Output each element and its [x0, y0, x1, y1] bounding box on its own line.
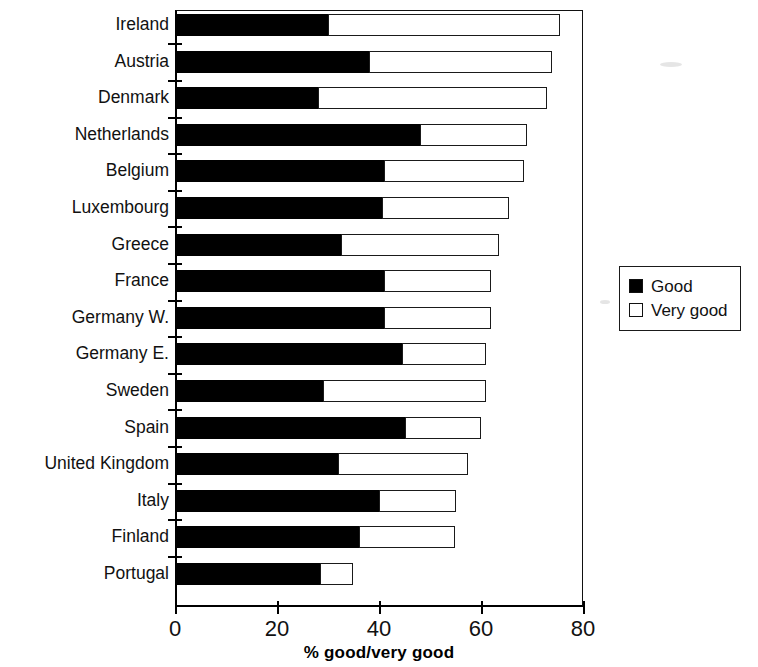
bar-segment-very-good: [402, 343, 486, 365]
bar-segment-very-good: [318, 87, 548, 109]
bar-segment-very-good: [320, 563, 353, 585]
y-axis-label: Germany E.: [7, 345, 175, 363]
bar-row: [175, 526, 456, 548]
bar-segment-good: [175, 14, 328, 36]
bar-row: [175, 234, 499, 256]
y-axis-label: Italy: [7, 492, 175, 510]
x-axis-tick-label: 80: [553, 618, 613, 640]
y-axis-label: Sweden: [7, 382, 175, 400]
legend-swatch-very-good-icon: [629, 303, 643, 317]
bar-row: [175, 380, 486, 402]
bar-segment-very-good: [384, 307, 491, 329]
y-axis-label: Netherlands: [7, 126, 175, 144]
y-axis-label: Germany W.: [7, 309, 175, 327]
legend-item-very-good: Very good: [629, 298, 732, 322]
legend-label-good: Good: [651, 278, 693, 295]
y-axis-label: United Kingdom: [7, 455, 175, 473]
bar-segment-very-good: [420, 124, 527, 146]
bar-segment-good: [175, 270, 384, 292]
chart-page: IrelandAustriaDenmarkNetherlandsBelgiumL…: [0, 0, 758, 667]
bar-segment-very-good: [341, 234, 499, 256]
bar-segment-very-good: [328, 14, 560, 36]
bar-segment-good: [175, 234, 341, 256]
y-axis-label: France: [7, 272, 175, 290]
bar-row: [175, 197, 509, 219]
bar-segment-very-good: [323, 380, 486, 402]
bar-row: [175, 124, 527, 146]
bar-segment-very-good: [382, 197, 510, 219]
bar-segment-good: [175, 453, 338, 475]
bar-segment-good: [175, 307, 384, 329]
bar-row: [175, 307, 491, 329]
scan-speckle: [660, 62, 682, 67]
bar-row: [175, 51, 552, 73]
x-axis-tick-label: 60: [451, 618, 511, 640]
bar-segment-good: [175, 124, 420, 146]
y-axis-label: Luxembourg: [7, 199, 175, 217]
bar-row: [175, 14, 560, 36]
x-axis-tick-label: 0: [145, 618, 205, 640]
bar-segment-very-good: [405, 417, 482, 439]
x-axis-tick: [583, 601, 585, 614]
bar-segment-good: [175, 417, 405, 439]
legend: Good Very good: [619, 266, 741, 331]
y-axis-label: Denmark: [7, 89, 175, 107]
x-axis-tick: [379, 601, 381, 614]
y-axis-label: Greece: [7, 236, 175, 254]
bar-segment-good: [175, 490, 379, 512]
y-axis-label: Austria: [7, 53, 175, 71]
x-axis-tick: [175, 601, 177, 614]
bar-segment-good: [175, 343, 402, 365]
bar-segment-good: [175, 160, 384, 182]
bar-row: [175, 343, 486, 365]
bar-row: [175, 87, 547, 109]
scan-speckle: [600, 300, 610, 304]
bar-segment-good: [175, 51, 369, 73]
x-axis-tick-label: 40: [349, 618, 409, 640]
bar-segment-good: [175, 380, 323, 402]
bar-segment-good: [175, 526, 359, 548]
bar-row: [175, 563, 354, 585]
bar-segment-very-good: [369, 51, 553, 73]
y-axis-label: Belgium: [7, 162, 175, 180]
bar-row: [175, 453, 468, 475]
legend-label-very-good: Very good: [651, 302, 728, 319]
x-axis-tick: [277, 601, 279, 614]
bar-segment-good: [175, 563, 320, 585]
bar-segment-good: [175, 197, 382, 219]
bar-segment-very-good: [379, 490, 456, 512]
x-axis-tick-label: 20: [247, 618, 307, 640]
bar-segment-very-good: [384, 270, 491, 292]
legend-swatch-good-icon: [629, 279, 643, 293]
y-axis-label: Finland: [7, 528, 175, 546]
y-axis-labels: IrelandAustriaDenmarkNetherlandsBelgiumL…: [0, 0, 175, 667]
bar-segment-very-good: [338, 453, 468, 475]
y-axis-label: Portugal: [7, 565, 175, 583]
bar-segment-very-good: [384, 160, 524, 182]
bars-layer: [175, 0, 583, 667]
x-axis-tick: [481, 601, 483, 614]
bar-row: [175, 270, 491, 292]
legend-item-good: Good: [629, 274, 732, 298]
bar-row: [175, 417, 481, 439]
bar-segment-very-good: [359, 526, 456, 548]
y-axis-label: Ireland: [7, 16, 175, 34]
y-axis-label: Spain: [7, 419, 175, 437]
bar-row: [175, 490, 456, 512]
x-axis-title: % good/very good: [175, 643, 583, 663]
bar-row: [175, 160, 524, 182]
bar-segment-good: [175, 87, 318, 109]
